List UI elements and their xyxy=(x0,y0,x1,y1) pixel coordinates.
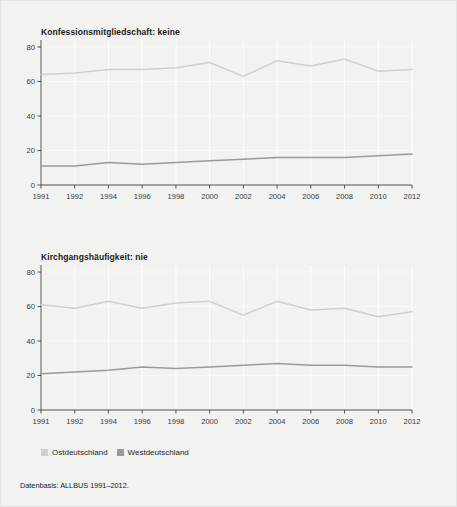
svg-text:1991: 1991 xyxy=(33,417,50,426)
svg-text:2006: 2006 xyxy=(302,192,319,201)
svg-text:80: 80 xyxy=(27,43,35,52)
svg-text:2010: 2010 xyxy=(370,192,387,201)
legend-item-westdeutschland[interactable]: Westdeutschland xyxy=(117,448,189,457)
svg-text:2002: 2002 xyxy=(235,192,252,201)
svg-text:2010: 2010 xyxy=(370,417,387,426)
svg-text:2004: 2004 xyxy=(269,192,286,201)
svg-text:20: 20 xyxy=(27,146,35,155)
legend-label-westdeutschland: Westdeutschland xyxy=(128,448,189,457)
chart-plot-area-2: 0204060801991199219941996199820002002200… xyxy=(1,226,457,461)
svg-text:2000: 2000 xyxy=(201,417,218,426)
chart-panel-konfessionsmitgliedschaft: Konfessionsmitgliedschaft: keine 0204060… xyxy=(1,1,457,236)
chart-legend: Ostdeutschland Westdeutschland xyxy=(41,448,189,457)
svg-text:1996: 1996 xyxy=(134,192,151,201)
svg-text:2012: 2012 xyxy=(404,417,421,426)
svg-text:40: 40 xyxy=(27,337,35,346)
svg-text:1994: 1994 xyxy=(100,417,117,426)
svg-text:2000: 2000 xyxy=(201,192,218,201)
svg-text:1991: 1991 xyxy=(33,192,50,201)
legend-swatch-icon-ostdeutschland xyxy=(41,449,48,456)
svg-text:0: 0 xyxy=(31,406,35,415)
svg-text:2002: 2002 xyxy=(235,417,252,426)
svg-text:80: 80 xyxy=(27,268,35,277)
chart-plot-area-1: 0204060801991199219941996199820002002200… xyxy=(1,1,457,236)
svg-text:0: 0 xyxy=(31,181,35,190)
svg-text:2012: 2012 xyxy=(404,192,421,201)
svg-text:2008: 2008 xyxy=(336,192,353,201)
svg-text:1992: 1992 xyxy=(66,417,83,426)
svg-text:2004: 2004 xyxy=(269,417,286,426)
legend-item-ostdeutschland[interactable]: Ostdeutschland xyxy=(41,448,108,457)
svg-text:2006: 2006 xyxy=(302,417,319,426)
figure-container: Konfessionsmitgliedschaft: keine 0204060… xyxy=(0,0,457,507)
legend-swatch-icon-westdeutschland xyxy=(117,449,124,456)
svg-text:60: 60 xyxy=(27,302,35,311)
chart-panel-kirchgangshaeufigkeit: Kirchgangshäufigkeit: nie 02040608019911… xyxy=(1,226,457,461)
legend-label-ostdeutschland: Ostdeutschland xyxy=(52,448,108,457)
svg-text:1998: 1998 xyxy=(167,417,184,426)
svg-text:1998: 1998 xyxy=(167,192,184,201)
svg-text:20: 20 xyxy=(27,371,35,380)
svg-text:60: 60 xyxy=(27,77,35,86)
svg-text:1992: 1992 xyxy=(66,192,83,201)
svg-text:2008: 2008 xyxy=(336,417,353,426)
svg-text:1994: 1994 xyxy=(100,192,117,201)
svg-text:1996: 1996 xyxy=(134,417,151,426)
chart-footnote: Datenbasis: ALLBUS 1991–2012. xyxy=(20,481,129,490)
svg-text:40: 40 xyxy=(27,112,35,121)
